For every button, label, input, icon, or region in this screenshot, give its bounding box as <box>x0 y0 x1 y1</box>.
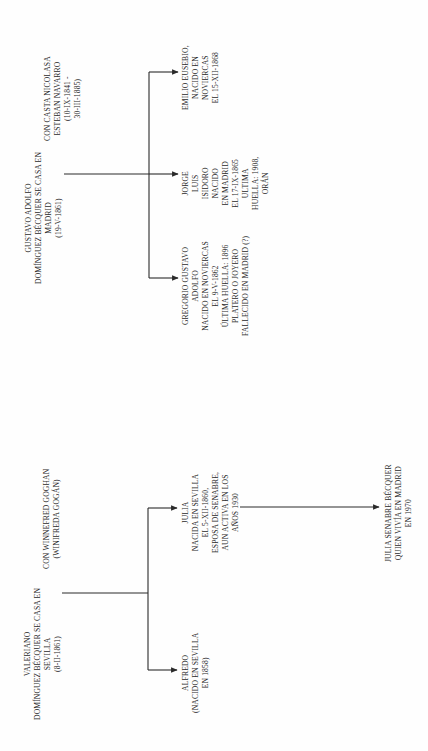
text-line: NACIDA EN SEVILLA <box>191 472 201 553</box>
casta-nicolasa-spouse-label: CON CASTA NICOLASA ESTEBAN NAVARRO (10-I… <box>43 56 83 141</box>
text-line: EL 17-IX-1865 <box>231 157 241 210</box>
text-line: (8-II-1861) <box>53 588 63 720</box>
text-line: MADRID <box>44 152 54 284</box>
text-line: EN 1970 <box>404 464 414 562</box>
text-line: GREGORIO GUSTAVO <box>181 236 191 336</box>
text-line: ULTIMA <box>241 157 251 210</box>
text-line: QUIEN VIVÍA EN MADRID <box>394 464 404 562</box>
gustavo-adolfo-parent-label: GUSTAVO ADOLFO DOMÍNGUEZ BÉCQUER SE CASA… <box>24 152 64 284</box>
text-line: PLATERO O JOYERO <box>231 236 241 336</box>
text-line: ESPOSA DE SENABRE, <box>211 472 221 553</box>
text-line: ORÁN <box>261 157 271 210</box>
text-line: ALFREDO <box>181 633 191 713</box>
text-line: SEVILLA <box>43 588 53 720</box>
text-line: DOMÍNGUEZ BÉCQUER SE CASA EN <box>33 588 43 720</box>
book-page: GUSTAVO ADOLFO DOMÍNGUEZ BÉCQUER SE CASA… <box>0 0 428 751</box>
text-line: JULIA SENABRE BÉCQUER <box>384 464 394 562</box>
text-line: ÚLTIMA HUELLA: 1896 <box>221 236 231 336</box>
child-emilio-eusebio: EMILIO EUSEBIO, NACIDO EN NOVIERCAS EL 1… <box>181 45 221 110</box>
text-line: HUELLA: 1908, <box>251 157 261 210</box>
winnefred-goghan-spouse-label: CON WINNEFRED GOGHAN (WINIFREDA GOGÁN) <box>42 469 62 569</box>
text-line: EL 5-XII-1860, <box>201 472 211 553</box>
child-gregorio-gustavo-adolfo: GREGORIO GUSTAVO ADOLFO NACIDO EN NOVIER… <box>181 236 251 336</box>
child-alfredo: ALFREDO (NACIDO EN SEVILLA EN 1858) <box>181 633 211 713</box>
text-line: GUSTAVO ADOLFO <box>24 152 34 284</box>
text-line: JULIA <box>181 472 191 553</box>
child-jorge-luis-isidoro: JORGE LUIS ISIDORO NACIDO EN MADRID EL 1… <box>181 157 271 210</box>
text-line: ADOLFO <box>191 236 201 336</box>
text-line: FALLECIDO EN MADRID (?) <box>241 236 251 336</box>
text-line: EMILIO EUSEBIO, <box>181 45 191 110</box>
text-line: AUN ACTIVA EN LOS <box>221 472 231 553</box>
text-line: DOMÍNGUEZ BÉCQUER SE CASA EN <box>34 152 44 284</box>
text-line: EN 1858) <box>201 633 211 713</box>
text-line: (WINIFREDA GOGÁN) <box>52 469 62 569</box>
text-line: JORGE <box>181 157 191 210</box>
text-line: EN MADRID <box>221 157 231 210</box>
text-line: NOVIERCAS <box>201 45 211 110</box>
text-line: EL 15-XII-1868 <box>211 45 221 110</box>
text-line: ESTEBAN NAVARRO <box>53 56 63 141</box>
text-line: 30-III-1885) <box>73 56 83 141</box>
text-line: (19-V-1861) <box>54 152 64 284</box>
text-line: VALERIANO <box>23 588 33 720</box>
child-julia: JULIA NACIDA EN SEVILLA EL 5-XII-1860, E… <box>181 472 241 553</box>
text-line: NACIDO EN NOVIERCAS <box>201 236 211 336</box>
text-line: CON CASTA NICOLASA <box>43 56 53 141</box>
valeriano-parent-label: VALERIANO DOMÍNGUEZ BÉCQUER SE CASA EN S… <box>23 588 63 720</box>
text-line: LUIS <box>191 157 201 210</box>
text-line: NACIDO EN <box>191 45 201 110</box>
text-line: (NACIDO EN SEVILLA <box>191 633 201 713</box>
grandchild-julia-senabre-becquer: JULIA SENABRE BÉCQUER QUIEN VIVÍA EN MAD… <box>384 464 414 562</box>
text-line: (10-IX-1841 - <box>63 56 73 141</box>
text-line: CON WINNEFRED GOGHAN <box>42 469 52 569</box>
text-line: NACIDO <box>211 157 221 210</box>
text-line: ISIDORO <box>201 157 211 210</box>
text-line: EL 9-V-1862 <box>211 236 221 336</box>
text-line: AÑOS 1930 <box>231 472 241 553</box>
